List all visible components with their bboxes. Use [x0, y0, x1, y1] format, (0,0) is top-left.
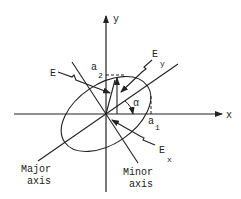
ey-label-sub: y: [160, 59, 165, 68]
a2-label-base: a: [91, 62, 97, 73]
alpha-angle-arc: [125, 101, 133, 114]
minor-axis-label-line2: axis: [129, 179, 153, 190]
alpha-label: α: [133, 98, 139, 109]
a2-label-sub: 2: [98, 71, 103, 80]
e-label: E: [50, 68, 56, 79]
y-axis-label: y: [113, 14, 119, 25]
major-axis-label-line1: Major: [21, 164, 51, 175]
ex-label-sub: x: [167, 155, 172, 164]
ey-label-base: E: [152, 49, 158, 60]
ey-wave-arrow: [121, 60, 152, 92]
a1-label-sub: 1: [155, 123, 160, 132]
polarization-ellipse-diagram: y x E E y E x a 2 a 1 α Major axis Minor…: [0, 0, 241, 199]
ex-label-base: E: [159, 145, 165, 156]
minor-axis-label-line1: Minor: [123, 167, 153, 178]
major-axis-label-line2: axis: [27, 176, 51, 187]
a1-label-base: a: [148, 116, 154, 127]
x-axis-label: x: [226, 110, 232, 121]
